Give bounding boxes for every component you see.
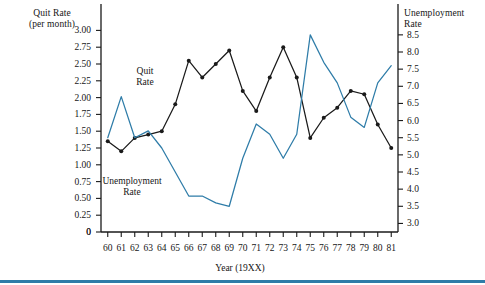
data-point [376,122,380,126]
data-point [349,89,353,93]
data-point [227,49,231,53]
left-tick-label-1.00: 1.00 [49,160,91,170]
data-point [214,62,218,66]
data-point [254,109,258,113]
left-tick-label-zero: 0 [49,227,91,237]
data-point [160,129,164,133]
left-tick-label-3.00: 3.00 [49,25,91,35]
left-tick-label-0.25: 0.25 [49,210,91,220]
right-tick-label-8.5: 8.5 [407,30,441,40]
quit-rate-series-label: Quit Rate [126,66,164,88]
data-point [187,59,191,63]
right-tick-label-4.5: 4.5 [407,167,441,177]
right-tick-label-5.5: 5.5 [407,133,441,143]
left-tick-label-1.75: 1.75 [49,109,91,119]
right-tick-label-4.0: 4.0 [407,184,441,194]
right-tick-label-3.5: 3.5 [407,201,441,211]
data-point [362,92,366,96]
data-point [200,75,204,79]
right-tick-label-3.0: 3.0 [407,218,441,228]
left-tick-label-1.25: 1.25 [49,143,91,153]
data-point [308,136,312,140]
series-line-quit-rate [108,47,392,151]
figure-container: Quit Rate (per month) Unemployment Rate … [0,0,485,285]
left-tick-label-1.50: 1.50 [49,126,91,136]
data-point [173,102,177,106]
x-axis-title: Year (19XX) [150,263,330,273]
axes-group [96,4,403,237]
data-point [389,146,393,150]
x-tick-label-81: 81 [380,243,402,253]
right-tick-label-7.5: 7.5 [407,64,441,74]
data-point [322,116,326,120]
data-point [241,89,245,93]
data-point [281,45,285,49]
left-tick-label-2.00: 2.00 [49,93,91,103]
data-point [335,106,339,110]
data-point [119,149,123,153]
right-tick-label-7.0: 7.0 [407,81,441,91]
right-tick-label-6.0: 6.0 [407,116,441,126]
left-tick-label-2.25: 2.25 [49,76,91,86]
right-tick-label-5.0: 5.0 [407,150,441,160]
left-tick-label-2.75: 2.75 [49,42,91,52]
left-tick-label-2.50: 2.50 [49,59,91,69]
data-point [268,75,272,79]
right-tick-label-6.5: 6.5 [407,98,441,108]
right-tick-label-8.0: 8.0 [407,47,441,57]
bottom-rule [0,280,485,283]
data-point [106,139,110,143]
unemployment-rate-series-label: Unemployment Rate [80,176,184,198]
data-point [295,75,299,79]
